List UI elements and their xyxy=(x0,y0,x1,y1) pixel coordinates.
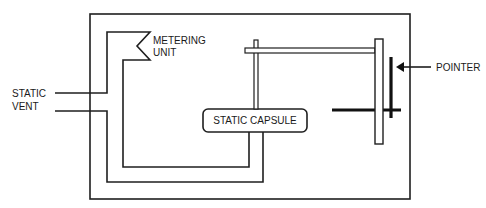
static-capsule-label: STATIC CAPSULE xyxy=(213,115,297,126)
linkage-bar xyxy=(245,48,375,53)
altimeter-diagram: METERING UNIT STATIC VENT STATIC CAPSULE… xyxy=(0,0,486,208)
static-vent-label-2: VENT xyxy=(12,101,39,112)
arrow-head-icon xyxy=(396,62,404,72)
pointer-label: POINTER xyxy=(436,62,480,73)
metering-unit-label-2: UNIT xyxy=(153,47,176,58)
metering-unit-label: METERING xyxy=(153,35,206,46)
static-vent-label: STATIC xyxy=(12,88,46,99)
static-pipe-outer xyxy=(55,32,249,167)
instrument-case xyxy=(90,14,410,199)
sector-plate xyxy=(375,39,383,144)
